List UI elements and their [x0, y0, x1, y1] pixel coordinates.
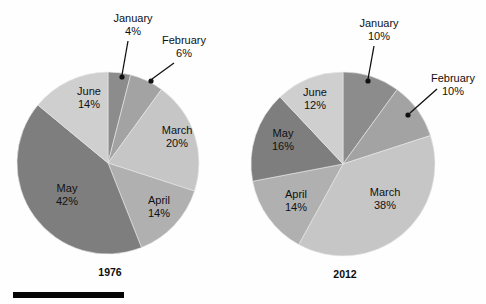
slice-label-march-value: 20% — [166, 137, 188, 149]
slice-label-march-value: 38% — [374, 199, 396, 211]
slice-label-january-value: 10% — [368, 30, 390, 42]
leader-dot — [148, 78, 153, 83]
slice-label-may: May — [273, 127, 294, 139]
slice-label-january-value: 4% — [125, 25, 141, 37]
leader-dot — [365, 78, 370, 83]
leader-dot — [405, 112, 410, 117]
pie-chart-2012: January10%February10%March38%April14%May… — [251, 17, 476, 280]
leader-line — [122, 41, 128, 75]
pie-charts-figure: January4%February6%March20%April14%May42… — [0, 0, 486, 304]
slice-label-march: March — [162, 124, 193, 136]
slice-label-may-value: 16% — [272, 140, 294, 152]
leader-line — [368, 46, 374, 79]
slice-label-april: April — [148, 194, 170, 206]
slice-label-january: January — [113, 12, 153, 24]
slice-label-april: April — [285, 188, 307, 200]
chart-title-1976: 1976 — [98, 266, 122, 278]
slice-label-march: March — [370, 186, 401, 198]
slice-label-february: February — [162, 34, 207, 46]
leader-line — [410, 89, 437, 113]
slice-label-january: January — [359, 17, 399, 29]
slice-label-june: June — [303, 86, 327, 98]
slice-label-april-value: 14% — [285, 201, 307, 213]
figure-canvas: January4%February6%March20%April14%May42… — [0, 0, 486, 304]
slice-label-february-value: 10% — [442, 85, 464, 97]
slice-label-june-value: 14% — [78, 98, 100, 110]
chart-title-2012: 2012 — [333, 268, 357, 280]
slice-label-june: June — [77, 85, 101, 97]
slice-label-june-value: 12% — [304, 99, 326, 111]
slice-label-may-value: 42% — [56, 195, 78, 207]
slice-label-february: February — [431, 72, 476, 84]
slice-label-may: May — [57, 182, 78, 194]
slice-label-april-value: 14% — [148, 207, 170, 219]
leader-dot — [119, 74, 124, 79]
leader-line — [152, 63, 174, 79]
pie-chart-1976: January4%February6%March20%April14%May42… — [17, 12, 207, 278]
slice-label-february-value: 6% — [176, 47, 192, 59]
scale-bar — [13, 292, 124, 298]
